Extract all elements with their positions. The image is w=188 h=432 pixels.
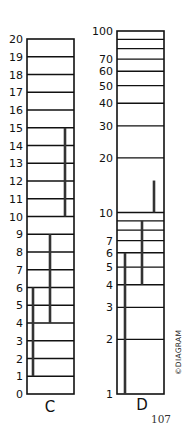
tick-label: 60 — [99, 65, 113, 78]
tick-label: 16 — [9, 104, 23, 117]
tick-label: 3 — [16, 335, 23, 348]
linear-scale-chart-c: 01234567891011121314151617181920 — [9, 33, 74, 401]
copyright-credit: ©DIAGRAM — [174, 330, 183, 375]
scale-comparison-diagram: 01234567891011121314151617181920 1234567… — [0, 0, 188, 432]
tick-label: 14 — [9, 140, 23, 153]
tick-label: 6 — [16, 282, 23, 295]
tick-label: 10 — [99, 207, 113, 220]
tick-label: 5 — [16, 299, 23, 312]
tick-label: 19 — [9, 51, 23, 64]
tick-label: 50 — [99, 80, 113, 93]
tick-label: 2 — [106, 333, 113, 346]
tick-label: 100 — [92, 25, 113, 38]
tick-label: 7 — [106, 235, 113, 248]
tick-label: 10 — [9, 211, 23, 224]
tick-label: 3 — [106, 301, 113, 314]
tick-label: 7 — [16, 264, 23, 277]
chart-c-label: C — [45, 398, 55, 416]
tick-label: 18 — [9, 69, 23, 82]
tick-label: 2 — [16, 353, 23, 366]
tick-label: 4 — [16, 317, 23, 330]
tick-label: 15 — [9, 122, 23, 135]
tick-label: 11 — [9, 193, 23, 206]
tick-label: 20 — [99, 152, 113, 165]
tick-label: 13 — [9, 157, 23, 170]
tick-label: 0 — [16, 388, 23, 401]
tick-label: 4 — [106, 279, 113, 292]
tick-label: 40 — [99, 97, 113, 110]
tick-label: 70 — [99, 53, 113, 66]
tick-label: 5 — [106, 261, 113, 274]
tick-label: 17 — [9, 86, 23, 99]
tick-label: 20 — [9, 33, 23, 46]
tick-label: 30 — [99, 120, 113, 133]
log-scale-chart-d: 123456710203040506070100 — [92, 25, 164, 401]
tick-label: 1 — [106, 388, 113, 401]
page-number: 107 — [151, 413, 171, 425]
tick-label: 8 — [16, 246, 23, 259]
tick-label: 1 — [16, 370, 23, 383]
tick-label: 12 — [9, 175, 23, 188]
tick-label: 6 — [106, 247, 113, 260]
chart-d-label: D — [136, 396, 148, 414]
tick-label: 9 — [16, 228, 23, 241]
